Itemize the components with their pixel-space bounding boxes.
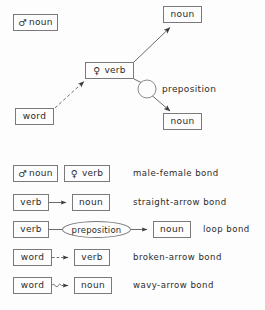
legend-loop-arrow-icon	[131, 222, 153, 238]
figure-canvas: ♂noun ♀verb noun word noun preposition ♂…	[0, 0, 265, 310]
legend-box-from[interactable]: word	[13, 277, 52, 294]
loop-circle	[138, 80, 156, 98]
node-noun-top-right[interactable]: noun	[163, 6, 202, 23]
legend-box-to[interactable]: noun	[74, 277, 112, 294]
edge-circle-to-noun	[152, 96, 170, 112]
legend-box-label: noun	[81, 281, 105, 290]
legend-box-from[interactable]: verb	[13, 194, 49, 211]
female-symbol-icon: ♀	[71, 169, 78, 179]
legend-box-to[interactable]: noun	[72, 194, 110, 211]
legend-description: straight-arrow bond	[133, 198, 227, 207]
legend-box-from[interactable]: word	[13, 249, 52, 266]
node-label: verb	[104, 66, 125, 75]
edge-word-to-verb	[55, 82, 84, 109]
legend-wavy-arrow-icon	[52, 278, 74, 294]
legend-box-from[interactable]: verb	[13, 221, 49, 238]
node-male-noun[interactable]: ♂noun	[13, 14, 58, 31]
legend-description: male-female bond	[133, 169, 219, 178]
legend-description: wavy-arrow bond	[133, 281, 214, 290]
node-label: word	[23, 112, 46, 121]
legend-box-label: noun	[79, 198, 103, 207]
legend-broken-arrow-icon	[52, 250, 74, 266]
edge-verb-to-noun	[134, 28, 170, 63]
legend-box-male-noun[interactable]: ♂noun	[13, 165, 58, 182]
node-label: noun	[171, 117, 195, 126]
legend-ellipse-preposition[interactable]: preposition	[62, 221, 131, 238]
legend-ellipse-label: preposition	[72, 225, 122, 235]
node-noun-bottom[interactable]: noun	[163, 113, 202, 130]
legend-box-label: word	[21, 253, 44, 262]
legend-box-label: verb	[20, 198, 41, 207]
legend-box-to[interactable]: verb	[74, 249, 110, 266]
male-symbol-icon: ♂	[18, 169, 27, 179]
node-female-verb[interactable]: ♀verb	[85, 62, 134, 79]
legend-straight-arrow-icon	[49, 195, 71, 211]
legend-box-female-verb[interactable]: ♀verb	[64, 165, 110, 182]
node-label: noun	[29, 18, 53, 27]
legend-box-label: word	[21, 281, 44, 290]
legend-box-label: noun	[160, 225, 184, 234]
preposition-label: preposition	[162, 85, 216, 94]
legend-box-label: verb	[81, 253, 102, 262]
edge-verb-to-circle	[134, 79, 143, 83]
legend-description: broken-arrow bond	[133, 253, 222, 262]
node-word-left[interactable]: word	[15, 108, 54, 125]
node-label: noun	[171, 10, 195, 19]
legend-box-to[interactable]: noun	[153, 221, 191, 238]
legend-loop-line-icon	[49, 222, 63, 238]
legend-box-label: noun	[29, 169, 53, 178]
legend-box-label: verb	[20, 225, 41, 234]
female-symbol-icon: ♀	[93, 66, 100, 76]
legend-box-label: verb	[82, 169, 103, 178]
legend-description: loop bond	[203, 225, 250, 234]
male-symbol-icon: ♂	[18, 18, 27, 28]
